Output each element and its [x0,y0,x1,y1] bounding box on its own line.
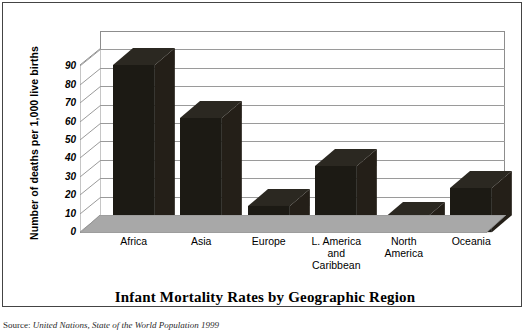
y-tick-label-80: 80 [65,80,76,90]
y-axis-title-text: Number of deaths per 1,000 live births [28,46,41,240]
tick-connector-50 [80,123,101,140]
y-tick-label-60: 60 [65,117,76,127]
source-label: Source: [3,320,31,330]
chart-title: Infant Mortality Rates by Geographic Reg… [3,289,527,306]
x-axis-label-asia: Asia [168,235,236,247]
x-axis-label-north-america: NorthAmerica [370,235,438,259]
y-tick-label-40: 40 [65,153,76,163]
source-note: Source: United Nations, State of the Wor… [3,320,403,331]
y-tick-label-70: 70 [65,98,76,108]
x-label-line: Caribbean [303,259,371,271]
x-label-line: and [303,247,371,259]
y-tick-label-30: 30 [65,172,76,182]
x-label-line: L. America [303,235,371,247]
x-label-line: Africa [100,235,168,247]
x-label-line: Europe [235,235,303,247]
bar-shape [180,101,242,232]
source-text: United Nations, State of the World Popul… [31,320,219,330]
y-axis-tick-labels: 0102030405060708090 [48,48,76,238]
tick-connector-80 [80,68,101,85]
x-label-line: North [370,235,438,247]
plot-area [80,48,505,232]
chart-figure-frame: Number of deaths per 1,000 live births 0… [2,2,522,307]
x-axis-labels: AfricaAsiaEuropeL. AmericaandCaribbeanNo… [80,235,506,281]
x-label-line: Oceania [438,235,506,247]
tick-connector-70 [80,86,101,103]
tick-connector-10 [80,197,101,214]
x-axis-label-africa: Africa [100,235,168,247]
tick-connector-40 [80,141,101,158]
tick-connector-60 [80,105,101,122]
y-tick-label-10: 10 [65,209,76,219]
tick-connector-30 [80,160,101,177]
x-label-line: America [370,247,438,259]
tick-connector-90 [80,49,101,66]
x-label-line: Asia [168,235,236,247]
y-tick-label-90: 90 [65,61,76,71]
x-axis-label-oceania: Oceania [438,235,506,247]
y-tick-label-50: 50 [65,135,76,145]
x-axis-label-europe: Europe [235,235,303,247]
plot-floor [80,215,506,233]
bar-africa [113,65,155,232]
bar-shape [113,48,175,232]
y-tick-label-20: 20 [65,190,76,200]
tick-connector-20 [80,178,101,195]
x-axis-label-l-america-and-caribbean: L. AmericaandCaribbean [303,235,371,271]
y-tick-label-0: 0 [70,227,76,237]
